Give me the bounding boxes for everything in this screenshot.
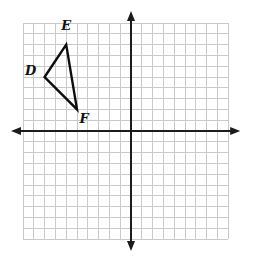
vertex-label-D: D bbox=[24, 63, 37, 78]
coordinate-plane: DEF bbox=[0, 0, 254, 263]
vertex-label-E: E bbox=[60, 18, 72, 33]
vertex-label-F: F bbox=[78, 111, 89, 126]
worksheet-figure: DEF bbox=[0, 0, 254, 263]
